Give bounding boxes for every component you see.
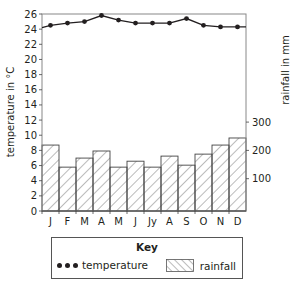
key-title: Key bbox=[52, 241, 242, 253]
rainfall-bar bbox=[76, 158, 93, 211]
svg-text:10: 10 bbox=[24, 130, 37, 141]
rainfall-bar bbox=[229, 138, 246, 211]
rainfall-bar bbox=[161, 156, 178, 211]
temperature-point bbox=[48, 23, 53, 28]
temperature-point bbox=[65, 21, 70, 26]
svg-text:J: J bbox=[133, 216, 137, 227]
legend-temperature-label: temperature bbox=[82, 259, 148, 271]
left-axis-label: temperature in °C bbox=[5, 67, 16, 157]
svg-text:12: 12 bbox=[24, 115, 37, 126]
svg-text:O: O bbox=[200, 216, 208, 227]
svg-text:100: 100 bbox=[252, 173, 271, 184]
rainfall-bar bbox=[59, 167, 76, 211]
svg-text:A: A bbox=[166, 216, 173, 227]
temperature-marker-icon bbox=[57, 263, 78, 268]
rainfall-bar bbox=[110, 167, 127, 211]
svg-text:300: 300 bbox=[252, 117, 271, 128]
left-axis-ticks: 02468101214161820222426 bbox=[24, 9, 42, 217]
temperature-point bbox=[99, 13, 104, 18]
rainfall-bar bbox=[144, 167, 161, 211]
temperature-point bbox=[235, 24, 240, 29]
rainfall-bar bbox=[212, 145, 229, 211]
temperature-point bbox=[133, 21, 138, 26]
svg-text:20: 20 bbox=[24, 54, 37, 65]
svg-text:26: 26 bbox=[24, 9, 37, 20]
svg-text:M: M bbox=[80, 216, 89, 227]
svg-text:18: 18 bbox=[24, 69, 37, 80]
rainfall-bar bbox=[195, 154, 212, 211]
temperature-point bbox=[150, 21, 155, 26]
temperature-point bbox=[82, 19, 87, 24]
svg-text:F: F bbox=[65, 216, 71, 227]
svg-text:16: 16 bbox=[24, 84, 37, 95]
rainfall-hatch-icon bbox=[166, 259, 194, 272]
x-axis-ticks: JFMAMJJyASOND bbox=[42, 211, 242, 227]
legend-key: Key temperature rainfall bbox=[51, 237, 243, 279]
legend-rainfall: rainfall bbox=[166, 259, 236, 272]
svg-text:S: S bbox=[183, 216, 189, 227]
legend-temperature: temperature bbox=[57, 259, 148, 271]
rainfall-bar bbox=[127, 161, 144, 211]
rainfall-bar bbox=[42, 145, 59, 211]
svg-text:Jy: Jy bbox=[147, 216, 157, 227]
right-axis-ticks: 100200300 bbox=[246, 117, 271, 185]
rainfall-bar bbox=[93, 151, 110, 211]
temperature-line bbox=[42, 13, 246, 29]
svg-text:A: A bbox=[98, 216, 105, 227]
temperature-point bbox=[184, 16, 189, 21]
temperature-point bbox=[116, 18, 121, 23]
right-axis-label: rainfall in mm bbox=[280, 35, 291, 105]
temperature-point bbox=[218, 24, 223, 29]
temperature-point bbox=[201, 23, 206, 28]
svg-text:0: 0 bbox=[31, 206, 37, 217]
svg-text:N: N bbox=[217, 216, 224, 227]
svg-text:J: J bbox=[48, 216, 52, 227]
svg-text:200: 200 bbox=[252, 145, 271, 156]
svg-text:D: D bbox=[234, 216, 242, 227]
legend-rainfall-label: rainfall bbox=[200, 260, 236, 272]
svg-text:14: 14 bbox=[24, 99, 37, 110]
temperature-point bbox=[167, 21, 172, 26]
svg-text:6: 6 bbox=[31, 160, 37, 171]
svg-text:M: M bbox=[114, 216, 123, 227]
rainfall-bars bbox=[42, 138, 246, 211]
svg-text:2: 2 bbox=[31, 190, 37, 201]
svg-text:22: 22 bbox=[24, 39, 37, 50]
rainfall-bar bbox=[178, 165, 195, 211]
svg-text:8: 8 bbox=[31, 145, 37, 156]
svg-text:4: 4 bbox=[31, 175, 37, 186]
svg-text:24: 24 bbox=[24, 24, 37, 35]
